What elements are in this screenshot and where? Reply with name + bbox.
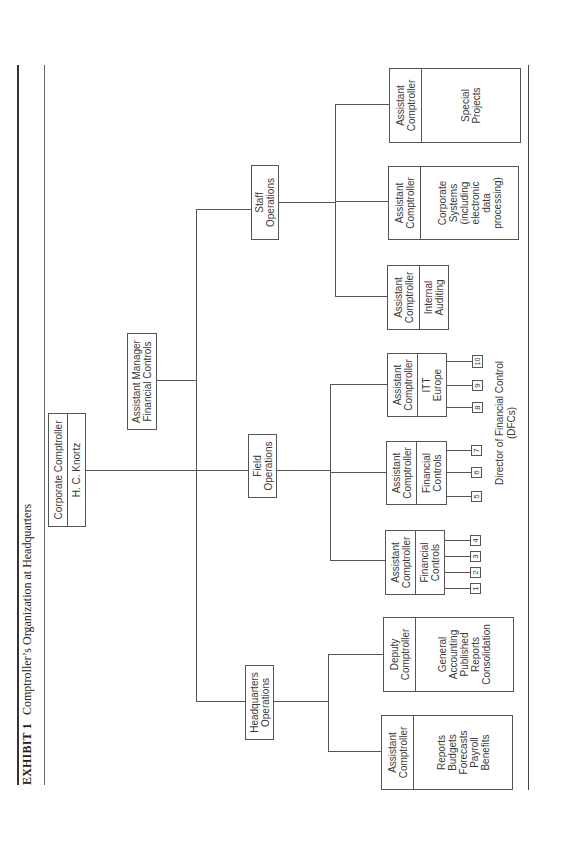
title-bottom-rule [44, 65, 45, 785]
division-staff-operations: Staff Operations [251, 165, 279, 240]
dfc-box-10: 10 [472, 355, 483, 368]
hq-drop [196, 701, 245, 702]
unit-assistant-comptroller-reports: Assistant Comptroller Reports Budgets Fo… [381, 715, 513, 790]
exhibit-title: EXHIBIT 1Comptroller’s Organization at H… [20, 504, 35, 785]
hq-stem [274, 701, 328, 702]
corporate-comptroller-title: Corporate Comptroller [49, 414, 68, 526]
unit-title: Assistant Comptroller [388, 354, 418, 416]
asst-manager-financial-controls-box: Assistant Manager Financial Controls [127, 333, 157, 430]
unit-assistant-comptroller-itt-europe: Assistant Comptroller ITT Europe [387, 353, 447, 417]
dfc-connector [447, 472, 471, 473]
exhibit-title-text: Comptroller’s Organization at Headquarte… [20, 504, 34, 715]
unit-title: Assistant Comptroller [389, 167, 421, 239]
field-stem [277, 470, 330, 471]
org-chart-page: EXHIBIT 1Comptroller’s Organization at H… [0, 0, 562, 853]
dfc-connector [445, 556, 470, 557]
asst-manager-connector [157, 380, 196, 381]
dfc-box-5: 5 [471, 491, 482, 502]
corporate-comptroller-box: Corporate Comptroller H. C. Knortz [48, 413, 86, 527]
unit-function: Financial Controls [416, 531, 444, 594]
unit-title: Deputy Comptroller [384, 618, 416, 691]
unit-function: Financial Controls [417, 442, 446, 504]
dfc-connector [447, 450, 471, 451]
dfc-box-7: 7 [471, 445, 482, 456]
unit-title: Assistant Comptroller [388, 266, 420, 329]
dfc-connector [447, 407, 472, 408]
dfc-connector [445, 588, 470, 589]
dfc-box-4: 4 [470, 535, 481, 546]
title-top-rule [17, 65, 19, 785]
hq-child-0-drop [328, 751, 381, 752]
hq-subbar [328, 654, 329, 752]
dfc-connector [447, 361, 472, 362]
unit-title: Assistant Comptroller [386, 531, 416, 594]
staff-drop [196, 209, 251, 210]
staff-child-1-drop [335, 201, 388, 202]
staff-child-2-drop [335, 104, 389, 105]
staff-stem [279, 202, 335, 203]
hq-child-1-drop [328, 654, 383, 655]
trunk-line [86, 470, 196, 471]
unit-title: Assistant Comptroller [387, 442, 417, 504]
unit-function: Special Projects [422, 69, 520, 142]
unit-title: Assistant Comptroller [382, 716, 414, 789]
dfc-connector [447, 385, 472, 386]
dfc-connector [445, 572, 470, 573]
dfc-box-8: 8 [472, 402, 483, 413]
unit-assistant-comptroller-fc-2: Assistant Comptroller Financial Controls [386, 441, 447, 505]
unit-function: Corporate Systems (including electronic … [421, 167, 518, 239]
division-bar [196, 209, 197, 702]
bottom-rule [528, 65, 529, 790]
dfc-caption: Director of Financial Control (DFCs) [494, 323, 518, 523]
division-headquarters-operations: Headquarters Operations [245, 665, 274, 740]
unit-assistant-comptroller-corporate-systems: Assistant Comptroller Corporate Systems … [388, 166, 519, 240]
field-drop [196, 470, 248, 471]
corporate-comptroller-name: H. C. Knortz [68, 414, 85, 526]
dfc-box-2: 2 [470, 567, 481, 578]
dfc-box-9: 9 [472, 380, 483, 391]
unit-function: ITT Europe [418, 354, 446, 416]
unit-assistant-comptroller-internal-auditing: Assistant Comptroller Internal Auditing [387, 265, 449, 330]
dfc-box-3: 3 [470, 551, 481, 562]
dfc-box-1: 1 [470, 583, 481, 594]
exhibit-label: EXHIBIT 1 [20, 723, 34, 785]
unit-assistant-comptroller-special-projects: Assistant Comptroller Special Projects [389, 68, 521, 143]
field-child-0-drop [330, 560, 385, 561]
unit-deputy-comptroller: Deputy Comptroller General Accounting Pu… [383, 617, 514, 692]
division-field-operations: Field Operations [248, 434, 277, 498]
unit-title: Assistant Comptroller [390, 69, 422, 142]
field-child-1-drop [330, 472, 386, 473]
unit-function: General Accounting Published Reports Con… [416, 618, 513, 691]
unit-function: Reports Budgets Forecasts Payroll Benefi… [414, 716, 512, 789]
dfc-box-6: 6 [471, 467, 482, 478]
staff-child-0-drop [335, 296, 387, 297]
dfc-connector [447, 496, 471, 497]
unit-function: Internal Auditing [420, 266, 448, 329]
field-child-2-drop [330, 384, 387, 385]
dfc-connector [445, 540, 470, 541]
unit-assistant-comptroller-fc-1: Assistant Comptroller Financial Controls [385, 530, 445, 595]
